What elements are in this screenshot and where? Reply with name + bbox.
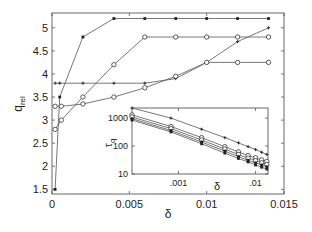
inset-x-tick-label: .001 (170, 178, 188, 188)
main-x-tick-label: 0 (49, 198, 55, 210)
main-y-tick-label: 2 (42, 160, 48, 172)
data-point (174, 74, 178, 78)
main-y-tick-label: 3.5 (33, 91, 48, 103)
data-point (59, 118, 63, 122)
chart-svg: 00.0050.010.0151.522.533.544.55 .001.011… (0, 0, 312, 232)
y-axis-label-base: q (11, 105, 25, 112)
data-point (53, 104, 57, 108)
data-point (131, 119, 134, 122)
data-point (204, 60, 208, 64)
x-axis-label: δ (165, 207, 172, 221)
main-y-tick-label: 3 (42, 114, 48, 126)
data-point (265, 168, 268, 171)
main-y-tick-label: 1.5 (33, 183, 48, 195)
data-point (58, 96, 61, 99)
inset-y-tick-label: 10 (118, 169, 128, 179)
data-point (235, 35, 239, 39)
data-point (82, 36, 85, 39)
chart-container: 00.0050.010.0151.522.533.544.55 .001.011… (0, 0, 312, 232)
data-point (112, 95, 116, 99)
data-point (254, 164, 257, 167)
data-point (260, 166, 263, 169)
data-point (143, 86, 147, 90)
data-point (223, 152, 226, 155)
data-point (247, 161, 250, 164)
data-point (170, 131, 173, 134)
data-point (266, 35, 270, 39)
data-point (235, 60, 239, 64)
data-point (200, 142, 203, 145)
data-point (59, 104, 63, 108)
data-point (267, 17, 270, 20)
main-x-tick-label: 0.005 (116, 198, 144, 210)
data-point (205, 17, 208, 20)
main-y-tick-label: 4 (42, 68, 48, 80)
inset-x-tick-label: .01 (249, 178, 262, 188)
data-point (143, 17, 146, 20)
y-axis-label-sub: rel (18, 96, 27, 105)
inset-y-axis-label-sub: q (108, 139, 117, 143)
data-point (53, 127, 57, 131)
data-point (112, 63, 116, 67)
inset-y-tick-label: 1000 (108, 113, 128, 123)
svg-text:qrel: qrel (11, 96, 27, 112)
main-y-tick-label: 4.5 (33, 45, 48, 57)
data-point (174, 17, 177, 20)
main-x-tick-label: 0.015 (270, 198, 298, 210)
data-point (112, 17, 115, 20)
data-point (266, 60, 270, 64)
y-axis-label: qrel (11, 96, 27, 112)
data-point (237, 157, 240, 160)
data-point (81, 95, 85, 99)
main-y-tick-label: 2.5 (33, 137, 48, 149)
data-point (54, 188, 57, 191)
data-point (236, 17, 239, 20)
main-y-tick-label: 5 (42, 22, 48, 34)
data-point (204, 35, 208, 39)
data-point (174, 35, 178, 39)
data-point (81, 102, 85, 106)
data-point (143, 35, 147, 39)
inset-x-axis-label: δ (214, 180, 220, 192)
main-x-tick-label: 0.01 (196, 198, 217, 210)
